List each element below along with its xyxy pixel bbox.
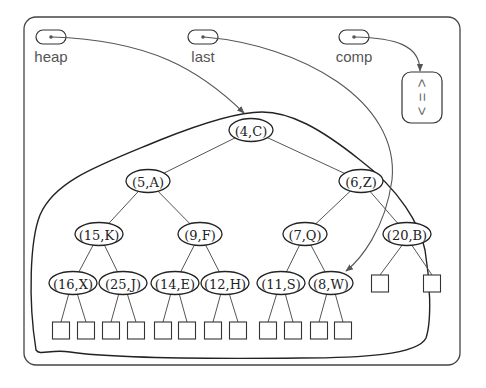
- greater-than-symbol: >: [414, 107, 431, 116]
- node-label: (25,J): [105, 277, 141, 292]
- comp-label: comp: [336, 48, 373, 65]
- leaf-edge: [285, 293, 293, 322]
- node-label: (7,Q): [288, 228, 321, 243]
- external-leaf: [103, 322, 120, 339]
- external-leaf: [155, 322, 172, 339]
- heap-node-8-w: (8,W): [309, 272, 353, 295]
- external-leaf: [53, 322, 70, 339]
- heap-node-25-j: (25,J): [99, 272, 147, 295]
- pointer-variables: heaplastcomp: [34, 30, 372, 65]
- node-label: (15,K): [79, 228, 120, 243]
- node-label: (8,W): [313, 277, 349, 292]
- external-leaf: [424, 275, 441, 292]
- external-leaf: [78, 322, 95, 339]
- heap-pointer: heap: [34, 30, 67, 65]
- leaf-edge: [61, 293, 69, 322]
- heap-pointer-arrow: [52, 37, 244, 113]
- external-leaf: [311, 322, 328, 339]
- heap-diagram: (4,C)(5,A)(6,Z)(15,K)(9,F)(7,Q)(20,B)(16…: [0, 0, 486, 388]
- leaf-edge: [268, 293, 277, 322]
- equals-symbol: =: [414, 93, 431, 102]
- leaf-edge: [319, 293, 327, 322]
- last-label: last: [191, 48, 215, 65]
- external-leaf: [260, 322, 277, 339]
- leaf-edge: [111, 293, 119, 322]
- diagram-canvas: (4,C)(5,A)(6,Z)(15,K)(9,F)(7,Q)(20,B)(16…: [0, 0, 486, 388]
- heap-node-12-h: (12,H): [201, 272, 249, 295]
- external-leaf: [335, 322, 352, 339]
- heap-node-14-e: (14,E): [151, 272, 199, 295]
- comp-pointer: comp: [336, 30, 373, 65]
- leaf-edge: [335, 293, 343, 322]
- leaf-edge: [127, 293, 136, 322]
- leaf-edge: [229, 293, 238, 322]
- comparator-box: < = >: [402, 72, 442, 123]
- tree-nodes: (4,C)(5,A)(6,Z)(15,K)(9,F)(7,Q)(20,B)(16…: [49, 119, 431, 295]
- outer-frame: [24, 17, 460, 365]
- heap-node-9-f: (9,F): [178, 223, 222, 246]
- node-label: (6,Z): [345, 175, 377, 190]
- node-label: (4,C): [235, 124, 268, 139]
- last-pointer: last: [188, 30, 218, 65]
- leaf-edge: [163, 293, 171, 322]
- heap-node-5-a: (5,A): [126, 170, 170, 193]
- heap-node-16-x: (16,X): [49, 272, 97, 295]
- leaf-edge: [380, 244, 403, 275]
- external-leaf: [179, 322, 196, 339]
- node-label: (14,E): [155, 277, 195, 292]
- heap-node-4-c: (4,C): [229, 119, 273, 142]
- heap-node-15-k: (15,K): [75, 223, 123, 246]
- external-leaf: [128, 322, 145, 339]
- leaf-edge: [411, 244, 432, 275]
- heap-node-20-b: (20,B): [383, 223, 431, 246]
- heap-node-6-z: (6,Z): [339, 170, 383, 193]
- external-leaf: [285, 322, 302, 339]
- node-label: (9,F): [184, 228, 216, 243]
- node-label: (5,A): [132, 175, 164, 190]
- leaf-edge: [77, 293, 86, 322]
- external-leaf: [230, 322, 247, 339]
- node-label: (11,S): [261, 277, 301, 292]
- heap-label: heap: [34, 48, 67, 65]
- less-than-symbol: <: [414, 79, 431, 88]
- leaf-edge: [179, 293, 187, 322]
- external-leaf: [205, 322, 222, 339]
- heap-node-7-q: (7,Q): [283, 223, 327, 246]
- node-label: (16,X): [53, 277, 93, 292]
- heap-node-11-s: (11,S): [257, 272, 305, 295]
- node-label: (12,H): [204, 277, 246, 292]
- node-label: (20,B): [387, 228, 427, 243]
- leaf-edge: [213, 293, 221, 322]
- external-leaf: [372, 275, 389, 292]
